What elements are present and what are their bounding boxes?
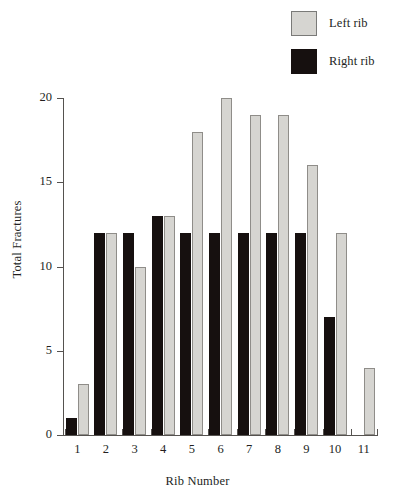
x-tick-label-1: 1 [62, 442, 92, 457]
bar-left-rib-11 [364, 368, 375, 435]
x-tick-label-9: 9 [291, 442, 321, 457]
bar-right-rib-2 [94, 233, 105, 435]
x-axis-line [63, 435, 378, 436]
bar-right-rib-9 [295, 233, 306, 435]
bar-right-rib-8 [266, 233, 277, 435]
bar-left-rib-3 [135, 267, 146, 436]
x-tick-label-7: 7 [234, 442, 264, 457]
x-tick-label-3: 3 [120, 442, 150, 457]
x-tick-label-5: 5 [177, 442, 207, 457]
bars-area [63, 98, 378, 435]
bar-left-rib-6 [221, 98, 232, 435]
bar-left-rib-5 [192, 132, 203, 435]
x-tick-label-8: 8 [263, 442, 293, 457]
y-tick-label-15: 15 [8, 175, 52, 188]
y-axis-label: Total Fractures [10, 180, 25, 300]
x-tick-label-6: 6 [206, 442, 236, 457]
bar-left-rib-8 [278, 115, 289, 435]
bar-right-rib-7 [238, 233, 249, 435]
bar-left-rib-10 [336, 233, 347, 435]
x-tick-label-11: 11 [349, 442, 379, 457]
x-tick-label-4: 4 [148, 442, 178, 457]
bar-right-rib-10 [324, 317, 335, 435]
bar-right-rib-1 [66, 418, 77, 435]
y-tick-label-10: 10 [8, 260, 52, 273]
bar-left-rib-9 [307, 165, 318, 435]
x-tick-label-10: 10 [320, 442, 350, 457]
y-tick-0 [57, 435, 64, 436]
x-axis-label: Rib Number [0, 474, 395, 489]
x-tick-label-2: 2 [91, 442, 121, 457]
bar-right-rib-4 [152, 216, 163, 435]
bar-left-rib-1 [78, 384, 89, 435]
bar-right-rib-3 [123, 233, 134, 435]
y-tick-label-0: 0 [8, 428, 52, 441]
bar-left-rib-2 [106, 233, 117, 435]
bar-left-rib-4 [164, 216, 175, 435]
bar-chart: Total Fractures Rib Number 05101520 1234… [0, 0, 395, 499]
bar-right-rib-6 [209, 233, 220, 435]
y-tick-label-5: 5 [8, 344, 52, 357]
bar-right-rib-5 [180, 233, 191, 435]
y-tick-label-20: 20 [8, 91, 52, 104]
bar-left-rib-7 [250, 115, 261, 435]
